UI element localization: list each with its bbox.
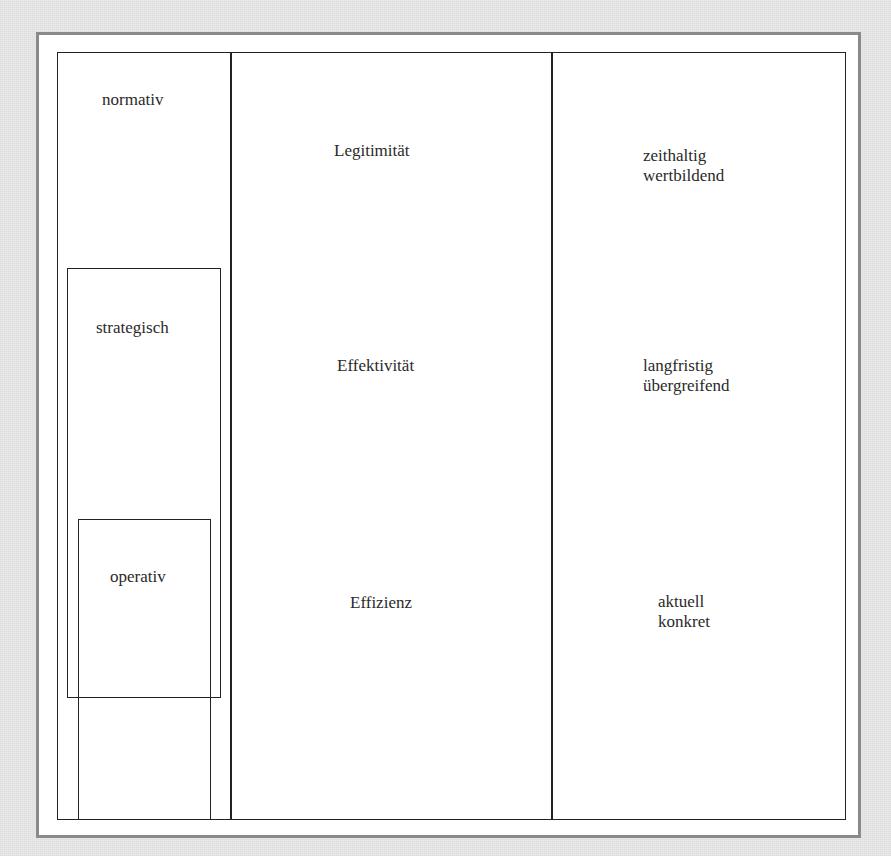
characteristic-line: aktuell [658, 592, 710, 612]
characteristics-operativ: aktuell konkret [658, 592, 710, 632]
level-strategisch-label: strategisch [96, 318, 169, 338]
characteristics-strategisch: langfristig übergreifend [643, 356, 730, 396]
characteristic-line: zeithaltig [643, 146, 724, 166]
characteristic-line: wertbildend [643, 166, 724, 186]
characteristic-line: langfristig [643, 356, 730, 376]
characteristic-line: übergreifend [643, 376, 730, 396]
characteristic-line: konkret [658, 612, 710, 632]
criterion-legitimitaet-label: Legitimität [334, 141, 410, 161]
criterion-effizienz-label: Effizienz [350, 593, 412, 613]
characteristics-normativ: zeithaltig wertbildend [643, 146, 724, 186]
criterion-effektivitaet-label: Effektivität [337, 356, 414, 376]
column-divider-1 [230, 52, 232, 820]
level-operativ-label: operativ [110, 567, 166, 587]
operational-level-box [78, 519, 211, 820]
column-divider-2 [551, 52, 553, 820]
level-normativ-label: normativ [102, 90, 163, 110]
